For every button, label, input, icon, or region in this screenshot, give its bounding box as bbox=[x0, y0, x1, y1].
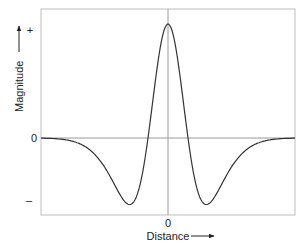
y-axis-title: Magnitude bbox=[13, 26, 25, 112]
chart: + 0 – Magnitude 0 Distance bbox=[0, 0, 308, 252]
y-tick-minus: – bbox=[26, 194, 33, 206]
x-axis-label: Distance bbox=[147, 230, 190, 242]
y-axis-label: Magnitude bbox=[13, 61, 25, 112]
x-tick-zero: 0 bbox=[165, 217, 171, 229]
y-tick-zero: 0 bbox=[31, 132, 37, 144]
y-tick-plus: + bbox=[27, 24, 33, 36]
